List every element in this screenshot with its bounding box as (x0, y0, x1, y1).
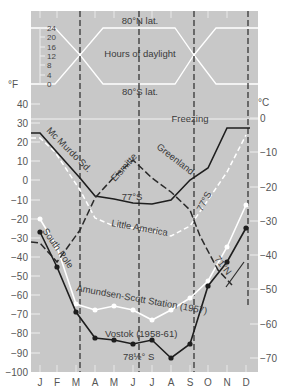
vostok-label: Vostok (1958-61) (105, 328, 177, 339)
svg-text:−100: −100 (5, 367, 28, 378)
svg-text:−50: −50 (11, 271, 28, 282)
polar-temperature-chart: °F 40 30 20 10 0 −10 −20 −30 −40 −50 −60… (0, 0, 290, 390)
lat-south-label: 80°S lat. (122, 86, 158, 97)
svg-text:J: J (150, 377, 155, 388)
svg-text:12: 12 (47, 52, 56, 61)
svg-text:−20: −20 (260, 182, 277, 193)
svg-text:−20: −20 (11, 214, 28, 225)
svg-text:−60: −60 (11, 290, 28, 301)
svg-text:A: A (92, 377, 99, 388)
svg-text:24: 24 (47, 24, 56, 33)
svg-text:F: F (54, 377, 60, 388)
svg-text:20: 20 (17, 137, 29, 148)
svg-text:4: 4 (47, 71, 52, 80)
f-axis-labels: 40 30 20 10 0 −10 −20 −30 −40 −50 −60 −7… (5, 99, 28, 378)
svg-text:8: 8 (47, 61, 52, 70)
svg-text:J: J (131, 377, 136, 388)
daylight-title: Hours of daylight (104, 48, 176, 59)
lat-north-label: 80°N lat. (122, 15, 159, 26)
svg-text:−40: −40 (260, 250, 277, 261)
month-axis-labels: J F M A M J J A S O N D (38, 377, 250, 388)
svg-text:10: 10 (17, 156, 29, 167)
svg-text:−30: −30 (11, 233, 28, 244)
svg-text:N: N (223, 377, 230, 388)
unit-c-label: °C (258, 97, 269, 108)
svg-text:−10: −10 (260, 147, 277, 158)
s77-label-a: 77°S (122, 191, 143, 202)
svg-text:−60: −60 (260, 319, 277, 330)
plot-area (31, 11, 258, 372)
svg-text:D: D (242, 377, 249, 388)
svg-text:0: 0 (22, 175, 28, 186)
svg-text:0: 0 (47, 80, 52, 89)
unit-f-label: °F (8, 79, 18, 90)
svg-text:−70: −70 (260, 353, 277, 364)
c-axis-labels: 0 −10 −20 −30 −40 −50 −60 −70 (260, 113, 277, 364)
svg-text:−30: −30 (260, 216, 277, 227)
svg-text:M: M (110, 377, 118, 388)
svg-text:30: 30 (17, 118, 29, 129)
svg-text:−80: −80 (11, 328, 28, 339)
svg-text:−50: −50 (260, 284, 277, 295)
svg-text:−90: −90 (11, 348, 28, 359)
svg-text:−40: −40 (11, 252, 28, 263)
freezing-label: Freezing (172, 113, 209, 124)
svg-text:O: O (204, 377, 212, 388)
svg-text:S: S (187, 377, 194, 388)
svg-text:40: 40 (17, 99, 29, 110)
svg-text:J: J (38, 377, 43, 388)
svg-text:M: M (72, 377, 80, 388)
svg-text:20: 20 (47, 33, 56, 42)
svg-text:16: 16 (47, 43, 56, 52)
svg-text:0: 0 (260, 113, 266, 124)
s78-label: 78½° S (123, 351, 154, 362)
svg-text:−70: −70 (11, 309, 28, 320)
svg-text:A: A (168, 377, 175, 388)
svg-text:−10: −10 (11, 195, 28, 206)
